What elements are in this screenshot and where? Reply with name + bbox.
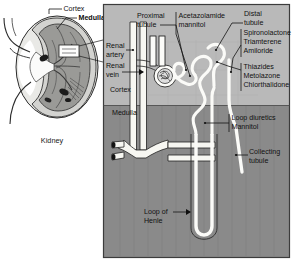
loop-of-henle-label-line1: Loop of (144, 208, 168, 216)
proximal-tubule-label-line2: tubule (137, 21, 156, 29)
magnification-region (59, 45, 79, 57)
distal-tubule-label-line2: tubule (244, 19, 263, 27)
mannitol-label: mannitol (179, 21, 206, 29)
kidney-cortex-label: Cortex (64, 5, 85, 13)
renal-artery-label-line2: artery (106, 51, 125, 59)
collecting-tubule-label-line2: tubule (249, 157, 268, 165)
thiazides-label: Thiazides (244, 63, 275, 71)
distal-tubule-label-line1: Distal (244, 10, 262, 18)
kidney-caption: Kidney (41, 136, 64, 145)
kidney-medulla-label: Medulla (79, 14, 105, 22)
collecting-tubule-label-line1: Collecting (249, 148, 280, 156)
loop-of-henle-label-line2: Henle (144, 217, 163, 225)
renal-vein-label-line1: Renal (106, 62, 125, 70)
proximal-tubule-label-line1: Proximal (137, 12, 165, 20)
kidney-diuretic-diagram: Cortex Medulla Kidney (0, 0, 302, 274)
acetazolamide-label: Acetazolamide (179, 12, 226, 20)
renal-vein-label-line2: vein (106, 71, 119, 79)
chlorthalidone-label: Chlorthalidone (244, 81, 290, 89)
triamterene-label: Triamterene (244, 38, 282, 46)
spironolactone-label: Spironolactone (244, 29, 291, 37)
renal-artery-label-line1: Renal (106, 42, 125, 50)
nephron-medulla-zone-label: Medulla (112, 109, 137, 117)
mannitol-loop-label: Mannitol (232, 123, 259, 131)
amiloride-label: Amiloride (244, 47, 274, 55)
loop-diuretics-label: Loop diuretics (232, 114, 277, 122)
metolazone-label: Metolazone (244, 72, 281, 80)
nephron-cortex-zone-label: Cortex (110, 86, 131, 94)
